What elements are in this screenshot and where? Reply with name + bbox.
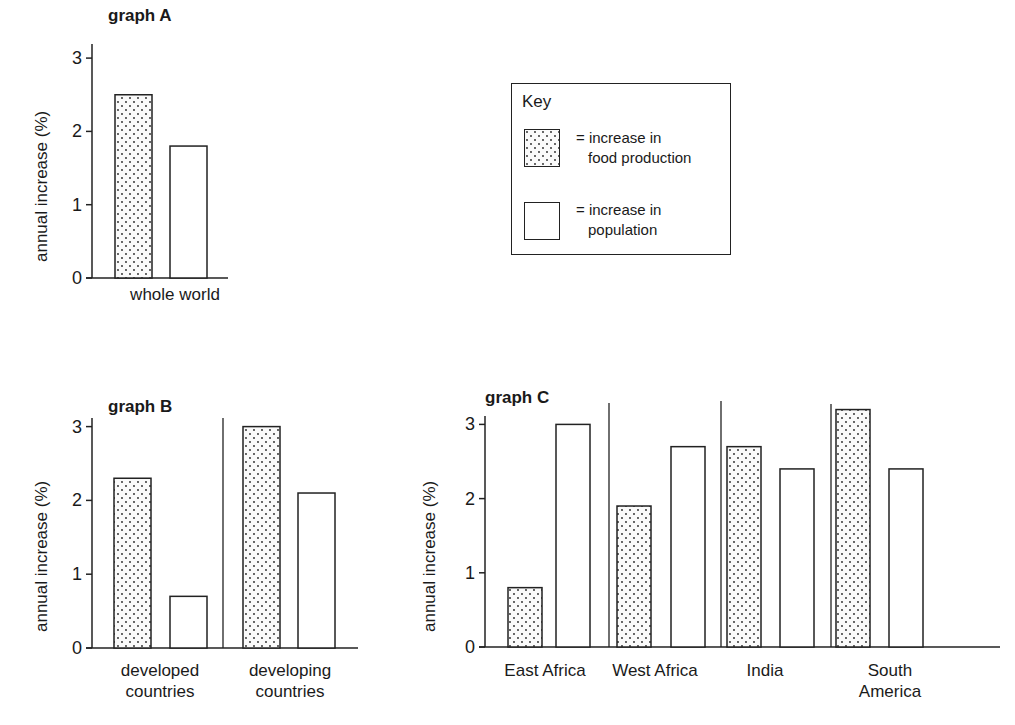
figure-canvas: 0123 0123 0123 (0, 0, 1015, 725)
legend-swatch-population (524, 202, 560, 240)
svg-text:3: 3 (72, 417, 82, 437)
svg-text:3: 3 (465, 414, 475, 434)
graph-c-category-label-west-africa: West Africa (600, 660, 710, 681)
legend-label-population: = increase in population (576, 200, 661, 240)
legend-swatch-food-production (524, 129, 560, 167)
graph-a-category-label: whole world (100, 284, 250, 305)
svg-text:2: 2 (72, 490, 82, 510)
svg-text:2: 2 (465, 489, 475, 509)
graph-c-category-label-india: India (715, 660, 815, 681)
svg-text:0: 0 (465, 637, 475, 657)
svg-text:3: 3 (72, 48, 82, 68)
graph-c-plot: 0123 (465, 401, 1000, 657)
graph-a-title: graph A (108, 6, 172, 26)
graph-c-category-label-south-america: SouthAmerica (840, 660, 940, 702)
caption-cutoff (0, 712, 1015, 725)
svg-text:1: 1 (465, 563, 475, 583)
legend-label-food-production: = increase in food production (576, 128, 691, 168)
svg-text:1: 1 (72, 564, 82, 584)
graph-b-plot: 0123 (72, 417, 358, 658)
graph-c-category-label-east-africa: East Africa (490, 660, 600, 681)
graph-c-y-axis-label: annual increase (%) (420, 481, 440, 632)
legend-key: Key = increase in food production = incr… (511, 83, 731, 255)
graph-a-plot: 0123 (72, 44, 228, 288)
svg-text:1: 1 (72, 195, 82, 215)
graph-b-y-axis-label: annual increase (%) (32, 481, 52, 632)
graph-a-y-axis-label: annual increase (%) (32, 111, 52, 262)
svg-text:0: 0 (72, 638, 82, 658)
graph-c-title: graph C (485, 388, 549, 408)
graph-b-category-label-developed: developedcountries (95, 660, 225, 702)
graph-b-title: graph B (108, 397, 172, 417)
legend-title: Key (522, 92, 551, 112)
svg-text:2: 2 (72, 121, 82, 141)
svg-text:0: 0 (72, 268, 82, 288)
graph-b-category-label-developing: developingcountries (225, 660, 355, 702)
